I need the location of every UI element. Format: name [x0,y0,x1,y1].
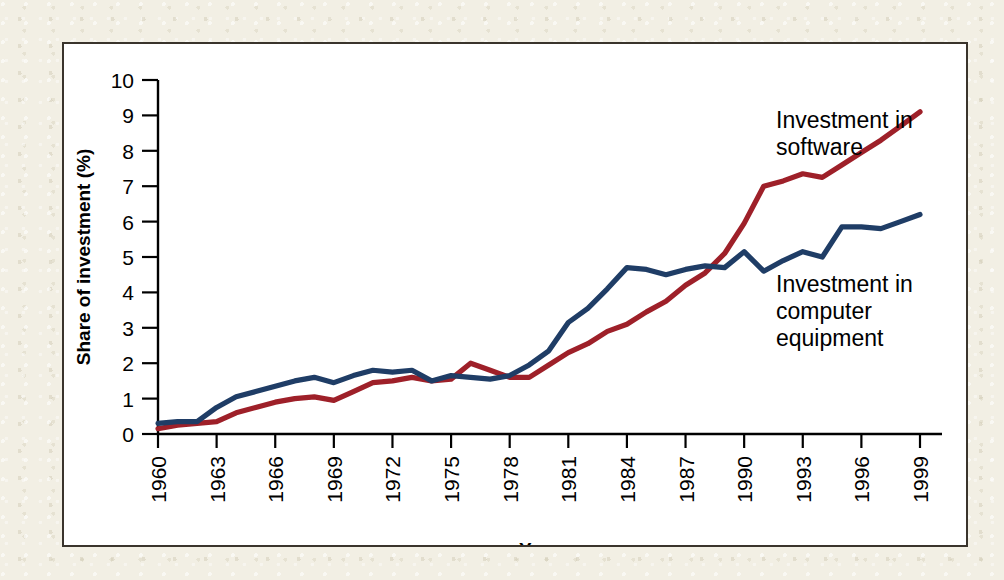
y-tick-label: 2 [122,352,134,375]
x-tick-label: 1972 [381,456,404,503]
x-axis-title: Year [519,539,560,545]
y-tick-label: 9 [122,104,134,127]
y-tick-label: 6 [122,211,134,234]
y-tick-label: 0 [122,423,134,446]
figure-panel: 0123456789101960196319661969197219751978… [62,42,968,547]
y-tick-label: 8 [122,140,134,163]
x-tick-label: 1969 [323,456,346,503]
figure-root: 0123456789101960196319661969197219751978… [0,0,1004,580]
y-tick-label: 1 [122,388,134,411]
y-tick-label: 10 [111,69,134,92]
x-tick-label: 1966 [264,456,287,503]
y-tick-label: 3 [122,317,134,340]
y-tick-label: 5 [122,246,134,269]
x-tick-label: 1975 [440,456,463,503]
x-tick-label: 1963 [206,456,229,503]
x-tick-label: 1984 [616,456,639,503]
y-axis-title: Share of investment (%) [73,149,94,365]
x-tick-label: 1999 [909,456,932,503]
y-tick-label: 4 [122,281,134,304]
x-tick-label: 1990 [733,456,756,503]
y-tick-label: 7 [122,175,134,198]
annotation-computer-equipment: Investment incomputerequipment [776,271,913,351]
x-tick-label: 1978 [499,456,522,503]
x-tick-label: 1996 [850,456,873,503]
x-tick-label: 1993 [792,456,815,503]
line-chart: 0123456789101960196319661969197219751978… [64,44,966,545]
x-tick-label: 1987 [675,456,698,503]
x-tick-label: 1960 [147,456,170,503]
x-tick-label: 1981 [557,456,580,503]
